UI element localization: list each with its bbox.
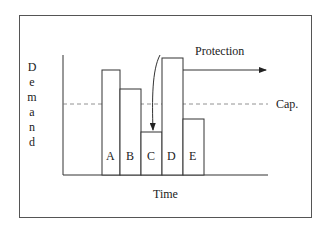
protection-arrow-down — [153, 55, 160, 130]
bar-label-b: B — [126, 149, 134, 164]
capacity-label: Cap. — [276, 97, 298, 112]
bar-label-e: E — [189, 149, 196, 164]
bar-label-c: C — [147, 149, 155, 164]
bar-label-a: A — [106, 149, 115, 164]
bar-e — [183, 119, 204, 175]
protection-label: Protection — [195, 44, 244, 59]
bar-label-d: D — [167, 149, 176, 164]
x-axis-label: Time — [153, 187, 178, 202]
